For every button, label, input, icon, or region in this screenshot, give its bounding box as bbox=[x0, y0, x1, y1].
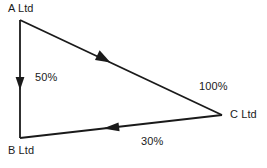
arrowhead-a-to-b-icon bbox=[16, 77, 25, 90]
node-label-a-ltd: A Ltd bbox=[8, 2, 34, 14]
arrowhead-a-to-c-icon bbox=[95, 50, 111, 62]
edge-a-to-b bbox=[16, 20, 25, 138]
edge-c-to-b bbox=[20, 115, 222, 138]
diagram-canvas: A Ltd B Ltd C Ltd 50% 100% 30% bbox=[0, 0, 267, 168]
edge-line-c-to-b bbox=[20, 115, 222, 138]
edge-label-c-to-b-percent: 30% bbox=[141, 135, 163, 147]
node-label-c-ltd: C Ltd bbox=[230, 108, 257, 120]
edge-a-to-c bbox=[20, 20, 222, 115]
edge-label-a-to-b-percent: 50% bbox=[35, 71, 57, 83]
edge-line-a-to-c bbox=[20, 20, 222, 115]
node-label-b-ltd: B Ltd bbox=[8, 144, 34, 156]
arrowhead-c-to-b-icon bbox=[103, 123, 120, 132]
edge-label-a-to-c-percent: 100% bbox=[199, 80, 228, 92]
